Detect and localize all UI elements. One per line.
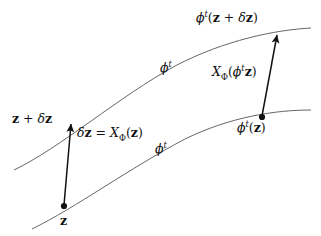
vector-field-arrow [262, 35, 277, 116]
lower-trajectory-curve [32, 110, 311, 229]
label-phi-t-lower-curve: ϕt [155, 141, 167, 156]
flow-diagram-figure: ϕt(z + δz) XΦ(ϕtz) ϕt(z) z + δz δz = XΦ(… [0, 0, 321, 236]
label-z-origin: z [60, 215, 67, 228]
point-z-dot [61, 203, 67, 209]
label-z-plus-delta-z: z + δz [12, 113, 52, 126]
delta-z-arrow [64, 124, 71, 205]
label-phi-t-of-z: ϕt(z) [237, 120, 266, 135]
label-X-Phi-of-phi-t-z: XΦ(ϕtz) [212, 64, 257, 81]
label-phi-t-upper-curve: ϕt [160, 60, 172, 75]
label-phi-t-of-z-plus-delta-z: ϕt(z + δz) [196, 10, 258, 25]
label-delta-z-equation: δz = XΦ(z) [77, 127, 143, 142]
